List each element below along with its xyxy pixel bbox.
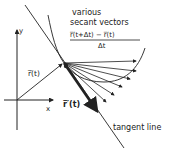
position-vector-label: r̅(t) (28, 69, 40, 78)
secant-vector (64, 61, 136, 63)
tangent-line-label: tangent line (113, 123, 161, 132)
title-line-2: secant vectors (70, 18, 129, 27)
x-axis-label: x (46, 105, 50, 113)
formula-denominator: Δt (98, 42, 106, 50)
y-axis-label: y (19, 27, 23, 35)
formula-numerator: r̅(t+Δt) − r̅(t) (69, 31, 114, 39)
title-line-1: various (72, 8, 101, 17)
secant-vector-diagram: various secant vectors r̅(t+Δt) − r̅(t) … (0, 0, 186, 153)
axes (4, 30, 53, 130)
secant-vector (64, 63, 106, 102)
point-of-tangency (64, 64, 68, 68)
derivative-vector-label: r̅′(t) (63, 100, 80, 109)
